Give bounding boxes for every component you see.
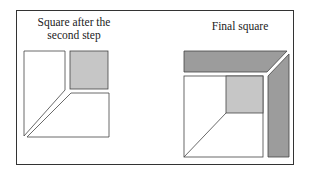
squares-diagram bbox=[0, 0, 312, 180]
right-side-bar bbox=[268, 54, 289, 157]
right-top-bar bbox=[184, 51, 287, 72]
left-gray-square bbox=[70, 51, 108, 89]
right-inner-gray-square bbox=[226, 76, 263, 113]
